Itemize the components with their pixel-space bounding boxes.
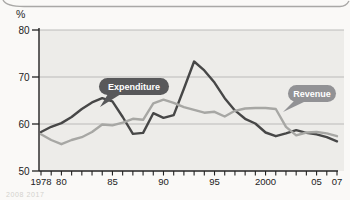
x-tick-label-1995: 95 — [209, 176, 220, 187]
footnote-bleedthrough-text: 2008 2017 — [6, 191, 45, 198]
x-tick-label-1980: 80 — [56, 176, 67, 187]
x-tick-label-1990: 90 — [158, 176, 169, 187]
revenue-label-text: Revenue — [293, 89, 331, 99]
y-tick-label-60: 60 — [18, 119, 30, 130]
y-tick-label-50: 50 — [18, 166, 30, 177]
scanned-figure-page: % 5060708019788085909520000507Expenditur… — [0, 0, 350, 200]
y-tick-label-70: 70 — [18, 72, 30, 83]
x-tick-label-1978: 1978 — [30, 176, 51, 187]
expenditure-label-text: Expenditure — [108, 82, 160, 92]
x-tick-label-2007: 07 — [332, 176, 343, 187]
x-tick-label-2005: 05 — [311, 176, 322, 187]
x-tick-label-2000: 2000 — [255, 176, 276, 187]
chart-svg: 5060708019788085909520000507ExpenditureR… — [0, 0, 350, 200]
x-tick-label-1985: 85 — [107, 176, 118, 187]
y-tick-label-80: 80 — [18, 25, 30, 36]
